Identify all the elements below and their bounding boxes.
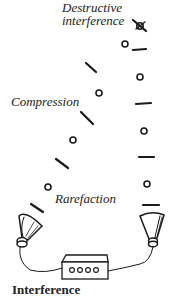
- label-rarefaction: Rarefaction: [55, 192, 116, 206]
- rarefaction-mark: [144, 181, 150, 187]
- figure-caption: Interference: [12, 282, 80, 298]
- right-speaker-icon: [108, 213, 164, 271]
- rarefaction-mark: [45, 184, 51, 190]
- label-compression: Compression: [11, 95, 79, 109]
- destructive-interference-marker: [133, 20, 146, 31]
- rarefaction-mark: [96, 90, 102, 96]
- rarefaction-mark: [137, 74, 143, 80]
- left-wavefronts: [31, 63, 102, 212]
- rarefaction-mark: [122, 41, 128, 47]
- left-speaker-icon: [17, 214, 62, 271]
- compression-mark: [86, 63, 96, 72]
- compression-mark: [133, 49, 146, 50]
- right-wavefronts: [122, 41, 159, 205]
- interference-diagram: [0, 0, 175, 301]
- compression-mark: [81, 112, 93, 124]
- amplifier-icon: [62, 255, 108, 279]
- compression-mark: [136, 103, 151, 104]
- compression-mark: [56, 159, 68, 168]
- label-interference: interference: [62, 14, 124, 28]
- rarefaction-mark: [70, 137, 76, 143]
- rarefaction-mark: [141, 128, 147, 134]
- compression-mark: [31, 204, 43, 212]
